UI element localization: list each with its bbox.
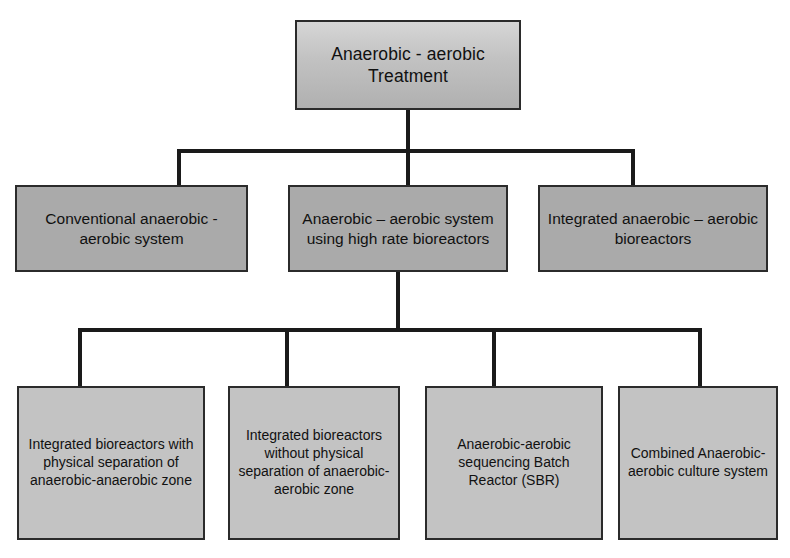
flowchart-canvas: Anaerobic - aerobic Treatment Convention… <box>0 0 790 558</box>
connector-root-stem <box>406 110 410 152</box>
node-level1-integrated-anaerobic-aerobic-bioreactors[interactable]: Integrated anaerobic – aerobic bioreacto… <box>538 185 768 272</box>
node-level2-label-4: Combined Anaerobic-aerobic culture syste… <box>626 445 770 481</box>
node-root-label: Anaerobic - aerobic Treatment <box>303 43 513 88</box>
node-level1-label-2: Anaerobic – aerobic system using high ra… <box>296 209 500 249</box>
connector-level1-drop-1 <box>177 149 181 187</box>
connector-level1-drop-2 <box>406 149 410 187</box>
node-level2-label-2: Integrated bioreactors without physical … <box>236 427 392 499</box>
node-root-anaerobic-aerobic-treatment[interactable]: Anaerobic - aerobic Treatment <box>295 20 521 110</box>
connector-level2-drop-2 <box>285 328 289 386</box>
node-level2-combined-anaerobic-aerobic-culture-system[interactable]: Combined Anaerobic-aerobic culture syste… <box>618 386 778 540</box>
connector-level2-drop-3 <box>492 328 496 386</box>
connector-level1-drop-3 <box>631 149 635 187</box>
node-level1-conventional-anaerobic-aerobic-system[interactable]: Conventional anaerobic - aerobic system <box>15 185 248 272</box>
node-level2-label-1: Integrated bioreactors with physical sep… <box>25 436 197 490</box>
connector-level2-drop-4 <box>698 328 702 386</box>
node-level1-anaerobic-aerobic-high-rate-bioreactors[interactable]: Anaerobic – aerobic system using high ra… <box>288 185 508 272</box>
connector-level2-bus <box>78 328 702 332</box>
connector-level2-stem <box>396 272 400 330</box>
connector-level2-drop-1 <box>78 328 82 386</box>
node-level2-integrated-bioreactors-without-physical-separation[interactable]: Integrated bioreactors without physical … <box>228 386 400 540</box>
node-level2-label-3: Anaerobic-aerobic sequencing Batch React… <box>433 436 595 490</box>
node-level2-integrated-bioreactors-with-physical-separation[interactable]: Integrated bioreactors with physical sep… <box>17 386 205 540</box>
node-level1-label-3: Integrated anaerobic – aerobic bioreacto… <box>546 209 760 249</box>
node-level1-label-1: Conventional anaerobic - aerobic system <box>23 209 240 249</box>
node-level2-anaerobic-aerobic-sequencing-batch-reactor[interactable]: Anaerobic-aerobic sequencing Batch React… <box>425 386 603 540</box>
